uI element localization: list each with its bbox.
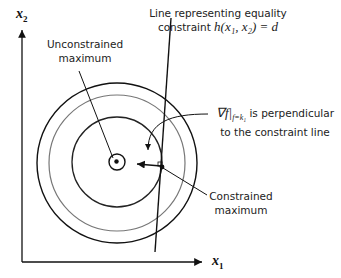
gradient-subscript: f=k₁ [232,113,246,122]
unconstrained-label: Unconstrained maximum [40,37,130,65]
y-axis-label-sub: 2 [23,14,28,24]
constrained-label: Constrained maximum [204,189,278,217]
constraint-label-prefix: constraint [158,21,214,33]
constraint-label: Line representing equality constraint h(… [128,6,308,34]
gradient-label: ∇f|f=k₁ is perpendicular to the constrai… [211,106,339,139]
gradient-symbol: ∇f| [216,105,232,120]
x-axis-label-sub: 1 [219,261,224,271]
constraint-equation: h(x₁, x₂) = d [214,19,278,34]
gradient-arrow [137,164,161,166]
y-axis-label: x2 [16,6,28,24]
gradient-label-line1: ∇f|f=k₁ is perpendicular [211,106,339,125]
unconstrained-max-dot [114,159,118,163]
constraint-label-line2: constraint h(x₁, x₂) = d [128,20,308,34]
gradient-label-suffix: is perpendicular [246,107,334,119]
x-axis-label: x1 [212,253,224,271]
x-axis-label-text: x [212,253,219,268]
constraint-line [155,18,171,252]
unconstrained-label-line1: Unconstrained [40,37,130,51]
y-axis-label-text: x [16,6,23,21]
unconstrained-label-line2: maximum [40,51,130,65]
gradient-label-line2: to the constraint line [211,125,339,139]
constraint-label-line1: Line representing equality [128,6,308,20]
constrained-label-line1: Constrained [204,189,278,203]
constrained-label-line2: maximum [204,203,278,217]
